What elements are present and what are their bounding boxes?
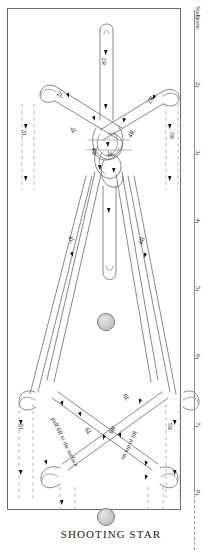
cord-label-3L-left: 3L bbox=[21, 130, 28, 138]
ruler-label-3: 3 bbox=[194, 150, 202, 154]
ruler-tick-4 bbox=[194, 222, 199, 223]
ruler-label-5: 5 bbox=[194, 286, 202, 290]
station-ruler: Stations: 12345678 bbox=[188, 0, 222, 555]
page-title: SHOOTING STAR bbox=[0, 528, 222, 540]
cord-label-3R-right: 3R bbox=[169, 132, 176, 140]
ruler-label-7: 7 bbox=[194, 422, 202, 426]
ruler-label-2: 2 bbox=[194, 82, 202, 86]
ruler-tick-8 bbox=[194, 494, 199, 495]
bead-middle bbox=[97, 313, 115, 331]
ruler-label-1: 1 bbox=[194, 14, 202, 18]
cord-label-4R-center: 4R bbox=[91, 148, 98, 156]
ruler-tick-2 bbox=[194, 86, 199, 87]
ruler-tick-6 bbox=[194, 358, 199, 359]
ruler-label-8: 8 bbox=[194, 490, 202, 494]
cord-label-2L-center: 2L bbox=[107, 151, 114, 159]
ruler-tick-7 bbox=[194, 426, 199, 427]
diagram-page: 2R2L2R3L3R4L4R4R2L4L4R6L5L5R6L6R pull 6R… bbox=[0, 0, 222, 555]
ruler-tick-3 bbox=[194, 154, 199, 155]
cord-label-2R-top: 2R bbox=[101, 58, 108, 66]
cord-label-5L: 5L bbox=[18, 424, 25, 432]
cord-label-5R: 5R bbox=[167, 423, 174, 431]
ruler-label-4: 4 bbox=[194, 218, 202, 222]
bead-bottom bbox=[97, 508, 115, 526]
ruler-axis-dashed bbox=[194, 490, 195, 550]
ruler-tick-1 bbox=[194, 18, 199, 19]
ruler-tick-5 bbox=[194, 290, 199, 291]
ruler-label-6: 6 bbox=[194, 354, 202, 358]
diagram-panel-border bbox=[7, 8, 181, 510]
